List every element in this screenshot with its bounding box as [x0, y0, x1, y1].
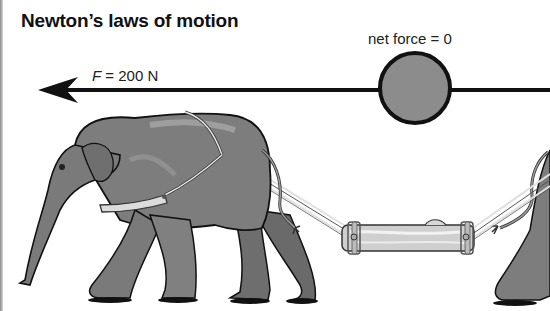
left-elephant [20, 114, 318, 304]
diagram-scene [0, 0, 550, 311]
force-arrow [38, 77, 550, 103]
right-elephant-partial [490, 150, 550, 306]
ball [380, 53, 450, 123]
log [342, 220, 474, 254]
elephant-eye [59, 164, 65, 170]
